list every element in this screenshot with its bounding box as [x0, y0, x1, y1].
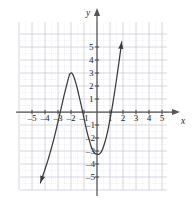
- x-tick-label: 3: [134, 113, 139, 123]
- y-tick-label: –5: [85, 172, 96, 182]
- y-tick-label: 4: [89, 55, 94, 65]
- curve-arrow-end: [118, 42, 123, 49]
- coordinate-plane: –5–4–3–2–112345 54321–1–2–3–4–5 x y: [0, 0, 193, 202]
- y-tick-label: 5: [89, 42, 94, 52]
- x-axis-label: x: [180, 116, 186, 126]
- y-tick-label: 3: [89, 68, 94, 78]
- x-tick-label: –5: [26, 113, 37, 123]
- graph-figure: –5–4–3–2–112345 54321–1–2–3–4–5 x y: [0, 0, 193, 202]
- x-axis-tick-labels: –5–4–3–2–112345: [26, 113, 164, 123]
- y-tick-label: 1: [89, 94, 94, 104]
- x-tick-label: 2: [121, 113, 126, 123]
- x-tick-label: –4: [39, 113, 50, 123]
- y-axis-label: y: [85, 8, 91, 18]
- x-tick-label: 4: [147, 113, 152, 123]
- y-tick-label: –4: [85, 159, 96, 169]
- y-tick-label: 2: [89, 81, 94, 91]
- x-tick-label: –2: [65, 113, 76, 123]
- x-tick-label: 5: [160, 113, 165, 123]
- curve-arrow-start: [40, 175, 45, 182]
